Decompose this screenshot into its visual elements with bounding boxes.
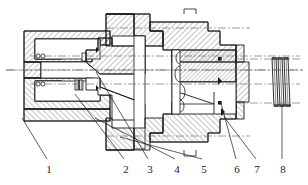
- callout-label-5: 5: [197, 163, 211, 175]
- callout-label-1: 1: [42, 163, 56, 175]
- callout-label-8: 8: [276, 163, 290, 175]
- callout-label-4: 4: [170, 163, 184, 175]
- leader-1: [22, 118, 47, 159]
- technical-drawing-figure: 1 2 3 4 5 6 7 8: [0, 0, 308, 185]
- leader-7: [224, 117, 256, 159]
- callout-label-2: 2: [119, 163, 133, 175]
- cross-section-drawing: [0, 0, 308, 185]
- right-seat-sleeve-part: [172, 50, 236, 116]
- callout-label-6: 6: [230, 163, 244, 175]
- callout-label-7: 7: [250, 163, 264, 175]
- spring-stack-part: [272, 57, 291, 107]
- callout-label-3: 3: [143, 163, 157, 175]
